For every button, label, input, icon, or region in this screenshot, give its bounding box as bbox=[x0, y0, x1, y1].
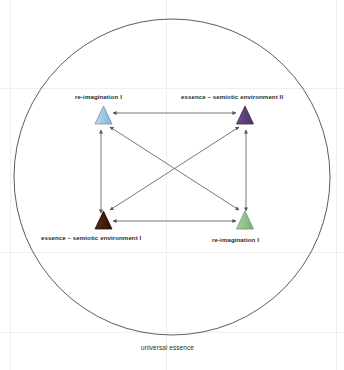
node-label-top-left: re-imagination I bbox=[75, 94, 122, 100]
node-label-bottom-right: re-imagination I bbox=[212, 237, 259, 243]
node-marker-top-left[interactable] bbox=[95, 106, 112, 124]
diagram-svg bbox=[0, 0, 344, 370]
node-label-top-right: essence – semiotic environment II bbox=[181, 94, 283, 100]
figure-canvas: re-imagination I essence – semiotic envi… bbox=[0, 0, 344, 370]
figure-caption: universal essence bbox=[141, 345, 194, 351]
node-marker-bottom-left[interactable] bbox=[95, 211, 112, 229]
node-marker-bottom-right[interactable] bbox=[237, 211, 254, 229]
node-marker-top-right[interactable] bbox=[237, 106, 254, 124]
universal-essence-circle bbox=[14, 19, 330, 335]
node-label-bottom-left: essence – semiotic environment I bbox=[41, 235, 141, 241]
